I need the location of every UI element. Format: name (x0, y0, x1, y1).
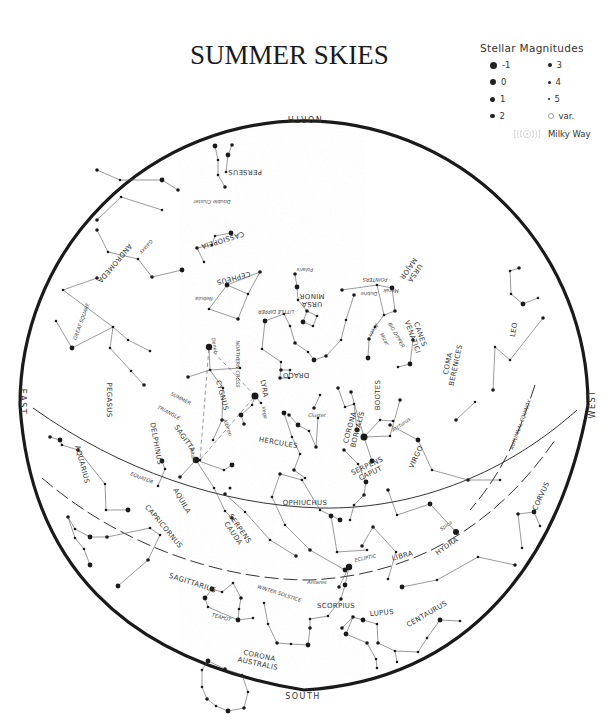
star-icon (400, 585, 405, 590)
star-icon (95, 168, 99, 172)
star-icon (238, 608, 241, 611)
constellation-label: SERPENSCAPUT (350, 455, 388, 484)
star-icon (362, 493, 366, 497)
star-icon (383, 314, 386, 317)
star-icon (361, 618, 366, 623)
star-icon (247, 293, 250, 296)
star-icon (376, 623, 379, 626)
star-icon (360, 544, 364, 548)
star-icon (417, 651, 420, 654)
star-icon (88, 535, 93, 540)
south-label: SOUTH (285, 692, 321, 701)
star-icon (521, 302, 526, 307)
star-icon (207, 606, 210, 609)
star-icon (375, 658, 378, 661)
star-icon (226, 153, 231, 158)
constellation-label: BOOTES (374, 379, 382, 410)
star-icon (201, 669, 204, 672)
star-icon (160, 178, 165, 183)
star-icon (205, 697, 209, 701)
star-icon (306, 643, 311, 648)
star-icon (301, 479, 304, 482)
star-icon (466, 478, 470, 482)
star-icon (279, 368, 283, 372)
star-icon (213, 487, 216, 490)
star-icon (230, 143, 234, 147)
constellation-label: COMABERENICES (440, 342, 464, 387)
star-icon (263, 319, 268, 324)
asterism-label: BIG DIPPER (387, 321, 406, 349)
star-icon (329, 514, 334, 519)
star-icon (337, 585, 341, 589)
star-icon (393, 309, 397, 313)
star-icon (316, 315, 319, 318)
star-icon (342, 448, 346, 452)
star-icon (289, 325, 292, 328)
star-icon (74, 528, 77, 531)
star-icon (351, 615, 355, 619)
star-icon (201, 686, 204, 689)
ecliptic-label: ECLIPTIC (354, 552, 377, 563)
constellation-label: VIRGO (407, 444, 425, 469)
star-icon (297, 299, 300, 302)
star-icon (180, 268, 185, 273)
star-icon (336, 386, 340, 390)
bright-star-icon (361, 434, 368, 441)
star-icon (203, 261, 206, 264)
star-icon (280, 361, 283, 364)
celestial-equator (33, 408, 577, 508)
star-name-label: Altair (189, 447, 198, 463)
star-icon (509, 359, 512, 362)
star-icon (203, 596, 208, 601)
star-icon (454, 418, 458, 422)
star-icon (161, 209, 164, 212)
star-icon (105, 509, 108, 512)
star-icon (324, 354, 328, 358)
star-icon (353, 403, 356, 406)
star-icon (66, 515, 70, 519)
star-icon (307, 351, 310, 354)
star-icon (271, 496, 274, 499)
star-icon (206, 659, 211, 664)
star-icon (353, 504, 356, 507)
star-icon (327, 615, 330, 618)
star-icon (312, 406, 316, 410)
star-icon (387, 578, 390, 581)
star-icon (186, 375, 190, 379)
star-icon (195, 246, 199, 250)
constellation-labels: PERSEUSCASSIOPEIAANDROMEDACEPHEUSURSAMIN… (72, 168, 552, 672)
star-icon (130, 370, 133, 373)
star-icon (242, 422, 246, 426)
star-icon (521, 547, 524, 550)
star-icon (366, 549, 369, 552)
star-icon (226, 709, 231, 714)
star-icon (338, 518, 343, 523)
star-icon (126, 508, 131, 513)
star-icon (215, 705, 218, 708)
star-name-label: Mizar (379, 332, 391, 347)
star-icon (236, 618, 241, 623)
constellation-label: CORONABOREALIS (341, 408, 366, 448)
star-icon (149, 350, 152, 353)
star-icon (291, 436, 294, 439)
asterism-label: GREAT SQUARE (72, 301, 91, 341)
star-icon (104, 483, 107, 486)
constellation-label: LIBRA (391, 549, 414, 562)
star-icon (109, 347, 112, 350)
star-icon (263, 602, 266, 605)
star-icon (296, 423, 301, 428)
star-icon (269, 539, 272, 542)
star-icon (436, 579, 439, 582)
star-icon (275, 641, 279, 645)
star-icon (366, 356, 371, 361)
asterism-label: SUMMER (170, 390, 192, 406)
star-icon (223, 667, 227, 671)
star-icon (336, 551, 339, 554)
star-icon (312, 325, 315, 328)
star-icon (376, 641, 380, 645)
star-icon (312, 358, 317, 363)
star-icon (208, 308, 211, 311)
star-icon (305, 309, 309, 313)
star-icon (416, 438, 421, 443)
constellation-label: AQUILA (171, 487, 192, 515)
